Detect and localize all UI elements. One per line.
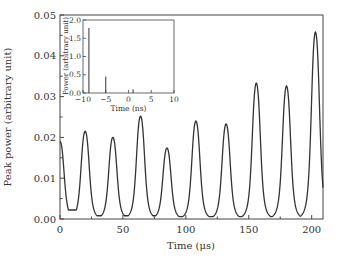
x-tick-label: 100 bbox=[176, 224, 195, 235]
main-y-axis: 0.000.010.020.030.040.05 bbox=[34, 10, 64, 225]
x-tick-label: 200 bbox=[302, 224, 321, 235]
inset-y-tick-label: 0.5 bbox=[69, 70, 81, 79]
inset-y-axis-title: Power (arbitrary unit) bbox=[62, 17, 70, 95]
y-tick-label: 0.02 bbox=[34, 132, 56, 143]
inset-x-tick-label: −5 bbox=[100, 95, 111, 104]
chart: 0.000.010.020.030.040.05 050100150200 Ti… bbox=[0, 0, 339, 262]
inset-x-tick-label: 0 bbox=[126, 95, 131, 104]
y-tick-label: 0.01 bbox=[34, 173, 56, 184]
y-tick-label: 0.04 bbox=[34, 50, 56, 61]
inset-x-axis-title: Time (ns) bbox=[111, 104, 147, 113]
inset-x-tick-label: −10 bbox=[75, 95, 91, 104]
main-x-axis-title: Time (μs) bbox=[167, 240, 215, 251]
inset-plot-frame bbox=[83, 20, 174, 93]
y-tick-label: 0.05 bbox=[34, 10, 56, 21]
x-tick-label: 50 bbox=[117, 224, 130, 235]
inset-y-tick-label: 1.5 bbox=[69, 34, 81, 43]
y-tick-label: 0.03 bbox=[34, 91, 56, 102]
main-x-axis: 050100150200 bbox=[57, 215, 321, 235]
y-tick-label: 0.00 bbox=[34, 214, 56, 225]
x-tick-label: 0 bbox=[57, 224, 63, 235]
x-tick-label: 150 bbox=[239, 224, 258, 235]
inset-y-tick-label: 2.0 bbox=[69, 16, 81, 25]
main-y-axis-title: Peak power (arbitrary unit) bbox=[2, 47, 13, 186]
inset-y-tick-label: 1.0 bbox=[69, 52, 81, 61]
inset-x-tick-label: 5 bbox=[149, 95, 154, 104]
inset-x-tick-label: 10 bbox=[169, 95, 179, 104]
